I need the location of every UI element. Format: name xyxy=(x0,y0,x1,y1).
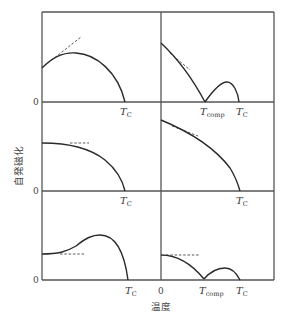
zero-label-right-bottom: 0 xyxy=(158,286,164,296)
zero-label-row2: 0 xyxy=(33,186,39,196)
magnetization-curve xyxy=(42,235,128,280)
tc-label: TC xyxy=(120,106,132,119)
panel-row1-left xyxy=(42,37,125,102)
tcomp-label: Tcomp xyxy=(199,285,224,298)
tc-label: TC xyxy=(120,195,132,208)
y-axis-title: 自発磁化 xyxy=(13,146,24,186)
magnetization-curve xyxy=(42,53,125,102)
panel-grid xyxy=(42,12,274,280)
panel-row2-right xyxy=(161,120,240,191)
magnetization-curve xyxy=(42,143,125,191)
magnetization-curve-low xyxy=(161,255,204,279)
panel-row3-right xyxy=(161,255,240,280)
x-axis-title: 温度 xyxy=(151,301,171,312)
magnetization-curve-hump xyxy=(204,268,240,280)
tc-label: TC xyxy=(236,285,248,298)
zero-label-row1: 0 xyxy=(33,97,39,107)
panel-row2-left xyxy=(42,143,125,191)
magnetization-curve xyxy=(161,120,240,191)
magnetization-curve-low xyxy=(161,43,205,102)
tc-label: TC xyxy=(125,285,137,298)
ferrimagnet-magnetization-diagram: 0 0 0 0 TC Tcomp TC TC TC TC Tcomp TC 自発… xyxy=(0,0,291,322)
panel-row3-left xyxy=(42,235,128,280)
panel-row1-right xyxy=(161,43,239,102)
tc-label: TC xyxy=(236,106,248,119)
tc-label: TC xyxy=(236,195,248,208)
tcomp-label: Tcomp xyxy=(200,106,225,119)
zero-label-row3: 0 xyxy=(33,275,39,285)
zero-labels: 0 0 0 0 xyxy=(33,97,164,296)
magnetization-curve-hump xyxy=(205,82,239,102)
